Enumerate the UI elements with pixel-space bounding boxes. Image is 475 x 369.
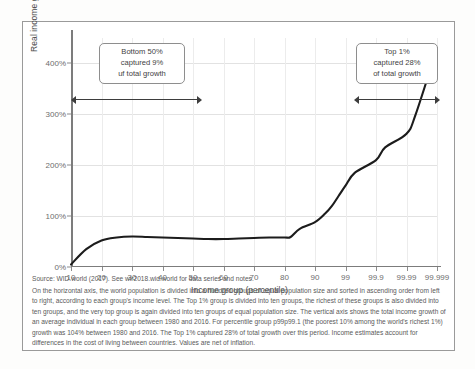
chart-area: Real income growth per adult (%) 0%100%2… — [23, 22, 456, 270]
x-tick-mark — [254, 267, 255, 271]
bottom-50-callout: Bottom 50% captured 9% uf total growth — [99, 43, 185, 84]
x-tick-mark — [285, 267, 286, 271]
x-tick-mark — [102, 267, 103, 271]
caption-body: On the horizontal axis, the world popula… — [32, 286, 446, 348]
y-tick-label: 300% — [46, 110, 66, 119]
y-tick-label: 200% — [46, 161, 66, 170]
x-tick-mark — [224, 267, 225, 271]
callout-line-2: captured 9% — [105, 58, 179, 69]
figure-caption: Source: WID.world (2017). See wir2018.wi… — [32, 274, 446, 348]
plot-region: Real income growth per adult (%) 0%100%2… — [71, 38, 437, 267]
callout-line-1: Bottom 50% — [105, 47, 179, 58]
callout-line-2: captured 28% — [362, 58, 432, 69]
x-tick-mark — [346, 267, 347, 271]
arrow-head-right — [197, 96, 202, 104]
x-tick-mark — [315, 267, 316, 271]
y-tick-label: 0% — [54, 263, 66, 272]
x-tick-mark — [193, 267, 194, 271]
callout-line-1: Top 1% — [362, 47, 432, 58]
figure-frame: Real income growth per adult (%) 0%100%2… — [22, 21, 455, 351]
x-tick-mark — [376, 267, 377, 271]
arrow-shaft — [358, 99, 436, 100]
arrow-shaft — [75, 99, 198, 100]
x-tick-mark — [132, 267, 133, 271]
bottom-50-span-arrow — [71, 95, 202, 104]
y-tick-label: 100% — [46, 212, 66, 221]
x-tick-mark — [437, 267, 438, 271]
top-1-span-arrow — [354, 95, 440, 104]
arrow-head-right — [435, 96, 440, 104]
callout-line-3: of total growth — [362, 69, 432, 80]
callout-line-3: uf total growth — [105, 69, 179, 80]
caption-source: Source: WID.world (2017). See wir2018.wi… — [32, 274, 446, 284]
x-tick-mark — [163, 267, 164, 271]
x-tick-mark — [71, 267, 72, 271]
page-background: Real income growth per adult (%) 0%100%2… — [0, 0, 475, 369]
y-tick-label: 400% — [46, 59, 66, 68]
x-tick-mark — [407, 267, 408, 271]
top-1-callout: Top 1% captured 28% of total growth — [356, 43, 438, 84]
y-axis-title: Real income growth per adult (%) — [29, 0, 39, 52]
